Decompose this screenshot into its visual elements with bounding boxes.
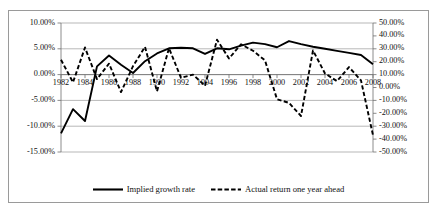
series-line-1 xyxy=(61,41,373,133)
chart-legend: Implied growth rate Actual return one ye… xyxy=(9,184,428,194)
legend-key-solid-line-icon xyxy=(93,186,123,193)
right-axis-tick: -20.00% xyxy=(379,109,407,117)
legend-label-actual-return: Actual return one year ahead xyxy=(245,184,344,194)
right-axis-tick: -30.00% xyxy=(379,122,407,130)
right-axis-tick: -10.00% xyxy=(379,96,407,104)
left-axis-tick: -10.00% xyxy=(9,122,55,130)
chart-canvas xyxy=(9,11,428,202)
series-line-2 xyxy=(61,40,373,135)
right-axis-tick: 30.00% xyxy=(379,44,404,52)
plot-area: 10.00%5.00%0.00%-5.00%-10.00%-15.00% 50.… xyxy=(9,11,428,202)
chart-figure: 10.00%5.00%0.00%-5.00%-10.00%-15.00% 50.… xyxy=(0,0,439,222)
left-axis-tick: -15.00% xyxy=(9,148,55,156)
right-axis-tick: 40.00% xyxy=(379,31,404,39)
legend-item-actual-return: Actual return one year ahead xyxy=(211,184,344,194)
legend-item-implied-growth-rate: Implied growth rate xyxy=(93,184,195,194)
right-axis-tick: -50.00% xyxy=(379,148,407,156)
legend-label-implied-growth-rate: Implied growth rate xyxy=(127,184,195,194)
legend-key-dashed-line-icon xyxy=(211,186,241,193)
right-axis-tick: 10.00% xyxy=(379,70,404,78)
x-axis-tick: 2008 xyxy=(358,79,388,87)
left-axis-tick: 5.00% xyxy=(9,44,55,52)
chart-frame: 10.00%5.00%0.00%-5.00%-10.00%-15.00% 50.… xyxy=(8,10,429,203)
right-axis-tick: 50.00% xyxy=(379,19,404,27)
left-axis-tick: 10.00% xyxy=(9,19,55,27)
right-axis-tick: -40.00% xyxy=(379,135,407,143)
left-axis-tick: -5.00% xyxy=(9,96,55,104)
left-axis-tick: 0.00% xyxy=(9,70,55,78)
right-axis-tick: 20.00% xyxy=(379,57,404,65)
